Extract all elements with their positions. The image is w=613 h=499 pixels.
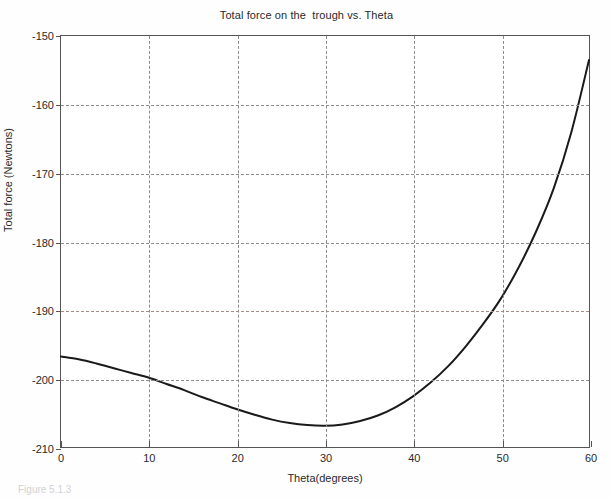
figure-caption: Figure 5.1.3 <box>18 484 71 495</box>
x-axis-label: Theta(degrees) <box>60 472 590 484</box>
y-tick-label: -210 <box>32 443 54 455</box>
y-tick-mark <box>56 311 61 312</box>
x-tick-label: 60 <box>585 452 597 464</box>
x-tick-label: 0 <box>58 452 64 464</box>
y-tick-label: -180 <box>32 237 54 249</box>
chart-figure: Total force on the trough vs. Theta -150… <box>0 0 613 499</box>
y-tick-mark <box>56 174 61 175</box>
plot-area: -150-160-170-180-190-200-210010203040506… <box>60 35 590 448</box>
x-tick-label: 10 <box>143 452 155 464</box>
x-tick-label: 30 <box>320 452 332 464</box>
y-tick-mark <box>56 105 61 106</box>
x-tick-mark <box>591 441 592 447</box>
x-tick-mark <box>326 441 327 447</box>
x-tick-label: 40 <box>408 452 420 464</box>
y-tick-mark <box>56 243 61 244</box>
y-tick-mark <box>56 449 61 450</box>
y-tick-label: -200 <box>32 374 54 386</box>
x-tick-mark <box>149 441 150 447</box>
y-tick-mark <box>56 36 61 37</box>
y-tick-label: -170 <box>32 168 54 180</box>
x-tick-mark <box>414 441 415 447</box>
y-tick-label: -160 <box>32 99 54 111</box>
x-tick-mark <box>238 441 239 447</box>
chart-title: Total force on the trough vs. Theta <box>0 9 613 21</box>
y-tick-label: -190 <box>32 305 54 317</box>
y-tick-mark <box>56 380 61 381</box>
x-tick-mark <box>61 441 62 447</box>
x-tick-mark <box>503 441 504 447</box>
y-tick-label: -150 <box>32 30 54 42</box>
x-tick-label: 20 <box>232 452 244 464</box>
y-axis-label: Total force (Newtons) <box>2 90 14 270</box>
data-series-line <box>61 36 589 447</box>
x-tick-label: 50 <box>497 452 509 464</box>
